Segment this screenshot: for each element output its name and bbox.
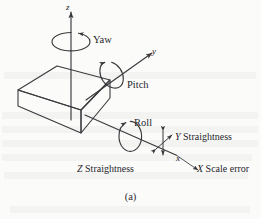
error-label-y-straightness: Y Straightness [175, 132, 232, 142]
axis-label-y: y [152, 47, 156, 56]
rotation-label-yaw: Yaw [93, 35, 112, 46]
rotation-label-pitch: Pitch [127, 80, 149, 91]
stage-block [18, 66, 110, 133]
error-label-x-scale-error: X Scale error [197, 164, 249, 174]
pitch-rotation-ellipse [100, 62, 123, 88]
error-motion-diagram [0, 0, 261, 219]
figure-caption: (a) [0, 191, 261, 202]
y-straightness-arrow [156, 135, 172, 149]
error-label-x-scale-error-text: Scale error [203, 163, 249, 174]
axis-label-x: x [176, 154, 180, 163]
error-label-z-straightness-text: Straightness [83, 163, 134, 174]
error-label-y-straightness-text: Straightness [181, 131, 232, 142]
figure-page: z y x Yaw Pitch Roll Y Straightness Z St… [0, 0, 261, 219]
axis-label-z: z [66, 3, 70, 12]
rotation-label-roll: Roll [134, 118, 152, 129]
error-label-z-straightness: Z Straightness [77, 164, 134, 174]
